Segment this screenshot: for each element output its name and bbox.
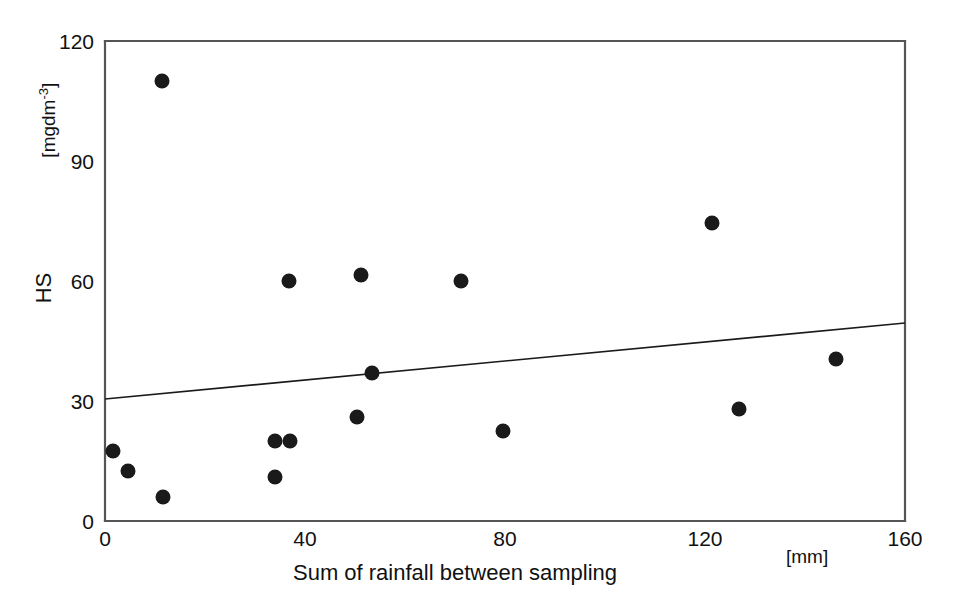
plot-canvas [0,0,954,607]
x-tick-label-0: 0 [70,528,140,549]
y-axis-unit-base: [mgdm [38,100,59,158]
y-axis-unit: [mgdm-3] [36,75,60,165]
x-tick-label-80: 80 [470,528,540,549]
data-point [705,216,720,231]
data-point [155,74,170,89]
data-point [732,402,747,417]
data-point [365,366,380,381]
y-tick-label-120: 120 [24,31,94,52]
data-point [829,352,844,367]
y-tick-label-30: 30 [24,391,94,412]
axis-frame [105,41,905,521]
data-point [350,410,365,425]
data-point [268,434,283,449]
x-axis-unit: [mm] [786,546,828,568]
y-axis-unit-close: ] [38,83,59,88]
data-points [106,74,844,505]
x-tick-label-120: 120 [670,528,740,549]
data-point [156,490,171,505]
data-point [354,268,369,283]
data-point [121,464,136,479]
y-axis-unit-exponent: -3 [36,88,51,100]
x-axis-title: Sum of rainfall between sampling [205,560,705,586]
y-axis-title: HS [31,238,57,338]
data-point [282,274,297,289]
data-point [268,470,283,485]
x-tick-label-40: 40 [270,528,340,549]
data-point [283,434,298,449]
x-tick-label-160: 160 [870,528,940,549]
trend-line [105,323,905,399]
data-point [454,274,469,289]
data-point [106,444,121,459]
data-point [496,424,511,439]
scatter-plot-figure: 120 90 60 30 0 HS [mgdm-3] 0 40 80 120 1… [0,0,954,607]
